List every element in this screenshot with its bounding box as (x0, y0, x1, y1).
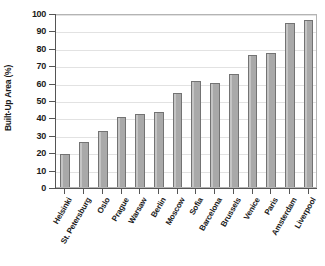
x-axis-line (55, 188, 317, 189)
x-axis-tick (214, 189, 215, 194)
gridline (56, 85, 316, 86)
y-axis-tick-label: 20 (20, 149, 46, 158)
bar (210, 83, 220, 187)
x-axis-tick (83, 189, 84, 194)
y-axis-tick-label: 30 (20, 131, 46, 140)
bar (229, 74, 239, 187)
y-axis-tick-label: 50 (20, 97, 46, 106)
x-axis-tick (64, 189, 65, 194)
bar (304, 20, 314, 187)
x-axis-tick (121, 189, 122, 194)
x-axis-tick (102, 189, 103, 194)
gridline (56, 119, 316, 120)
bar (135, 114, 145, 187)
y-axis-tick-label: 100 (20, 10, 46, 19)
x-axis-tick (195, 189, 196, 194)
y-axis-tick (49, 84, 55, 85)
x-axis-tick (177, 189, 178, 194)
gridline (56, 172, 316, 173)
y-axis-tick-label: 90 (20, 27, 46, 36)
y-axis-tick (49, 31, 55, 32)
y-axis-tick-label: 0 (20, 184, 46, 193)
bar (248, 55, 258, 187)
bar (98, 131, 108, 187)
gridline (56, 67, 316, 68)
bar (191, 81, 201, 187)
y-axis-tick (49, 188, 55, 189)
x-axis-tick (139, 189, 140, 194)
y-axis-tick (49, 66, 55, 67)
y-axis-tick (49, 49, 55, 50)
gridline (56, 102, 316, 103)
y-axis-title-text: Built-Up Area (%) (3, 65, 13, 131)
bar (154, 112, 164, 187)
x-axis-tick (289, 189, 290, 194)
y-axis-tick (49, 153, 55, 154)
x-axis-tick (270, 189, 271, 194)
y-axis-tick-label: 40 (20, 114, 46, 123)
bar (79, 142, 89, 187)
bar (266, 53, 276, 187)
y-axis-tick-label: 70 (20, 62, 46, 71)
y-axis-title: Built-Up Area (%) (0, 0, 16, 196)
gridline (56, 154, 316, 155)
x-axis-tick (308, 189, 309, 194)
y-axis-line (55, 14, 56, 189)
y-axis-tick (49, 136, 55, 137)
y-axis-tick (49, 101, 55, 102)
bar (60, 154, 70, 187)
y-axis-tick-label: 80 (20, 44, 46, 53)
bar (173, 93, 183, 187)
y-axis-tick-label: 10 (20, 166, 46, 175)
y-axis-tick (49, 14, 55, 15)
bar (285, 23, 295, 187)
gridline (56, 15, 316, 16)
gridline (56, 50, 316, 51)
gridline (56, 32, 316, 33)
bar-chart: Built-Up Area (%) 0102030405060708090100… (0, 0, 325, 266)
y-axis-tick (49, 171, 55, 172)
y-axis-tick (49, 118, 55, 119)
x-axis-tick (158, 189, 159, 194)
bar (117, 117, 127, 187)
x-axis-tick (252, 189, 253, 194)
gridline (56, 137, 316, 138)
plot-area (55, 14, 317, 188)
x-axis-tick (233, 189, 234, 194)
y-axis-tick-label: 60 (20, 79, 46, 88)
